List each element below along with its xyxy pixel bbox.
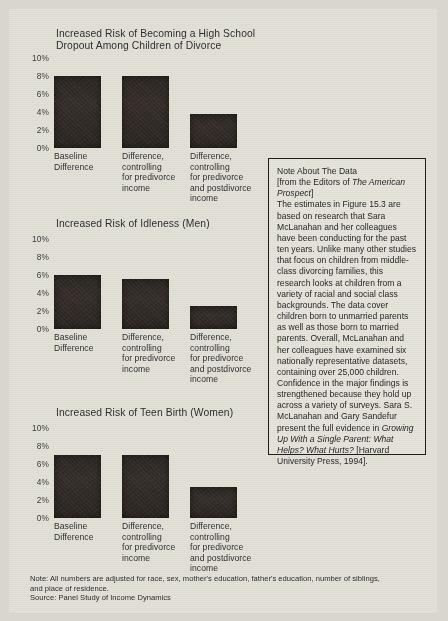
chart-3-catlabel-0: Baseline Difference	[54, 521, 118, 542]
chart-2-ytick-8: 8%	[23, 252, 49, 262]
note-box-attribution-prefix: [from the Editors of	[277, 177, 352, 187]
footnote-line-1: Note: All numbers are adjusted for race,…	[30, 574, 430, 584]
chart-3-ytick-6: 6%	[23, 459, 49, 469]
note-box-title: Note About The Data	[277, 166, 417, 177]
chart-2-ytick-6: 6%	[23, 270, 49, 280]
chart-2-catlabel-2: Difference, controlling for predivorce a…	[190, 332, 260, 385]
chart-3-ytick-2: 2%	[23, 495, 49, 505]
chart-3-ytick-8: 8%	[23, 441, 49, 451]
chart-1-catlabel-1: Difference, controlling for predivorce i…	[122, 151, 186, 193]
note-about-the-data-box: Note About The Data [from the Editors of…	[268, 158, 426, 455]
chart-2-bar-predivorce	[122, 279, 169, 329]
chart-1-ytick-6: 6%	[23, 89, 49, 99]
chart-1-catlabel-0: Baseline Difference	[54, 151, 118, 172]
chart-2-ytick-2: 2%	[23, 306, 49, 316]
note-box-body: The estimates in Figure 15.3 are based o…	[277, 199, 417, 467]
chart-2-title: Increased Risk of Idleness (Men)	[56, 218, 261, 230]
chart-1-catlabel-2: Difference, controlling for predivorce a…	[190, 151, 260, 204]
chart-1-ytick-0: 0%	[23, 143, 49, 153]
chart-3-ytick-10: 10%	[23, 423, 49, 433]
chart-1-title: Increased Risk of Becoming a High School…	[56, 28, 261, 53]
chart-1-ytick-2: 2%	[23, 125, 49, 135]
chart-1-bar-baseline	[54, 76, 101, 148]
chart-2-ytick-4: 4%	[23, 288, 49, 298]
chart-2-plot-area	[54, 239, 254, 329]
chart-1-ytick-8: 8%	[23, 71, 49, 81]
chart-1-plot-area	[54, 58, 254, 148]
chart-high-school-dropout: Increased Risk of Becoming a High School…	[9, 9, 267, 209]
chart-3-bar-postdivorce	[190, 487, 237, 519]
chart-1-bar-predivorce	[122, 76, 169, 148]
chart-2-ytick-0: 0%	[23, 324, 49, 334]
chart-3-catlabel-2: Difference, controlling for predivorce a…	[190, 521, 260, 574]
chart-3-title: Increased Risk of Teen Birth (Women)	[56, 407, 261, 419]
chart-3-bar-baseline	[54, 455, 101, 518]
chart-1-bar-postdivorce	[190, 114, 237, 148]
footnote-line-2: and place of residence.	[30, 584, 430, 594]
chart-2-bar-postdivorce	[190, 306, 237, 329]
figure-footnote: Note: All numbers are adjusted for race,…	[30, 574, 430, 603]
chart-2-catlabel-0: Baseline Difference	[54, 332, 118, 353]
chart-2-bar-baseline	[54, 275, 101, 329]
chart-idleness-men: Increased Risk of Idleness (Men) 10% 8% …	[9, 205, 267, 395]
chart-1-ytick-4: 4%	[23, 107, 49, 117]
chart-3-ytick-0: 0%	[23, 513, 49, 523]
chart-2-ytick-10: 10%	[23, 234, 49, 244]
chart-3-ytick-4: 4%	[23, 477, 49, 487]
note-box-attribution-suffix: ]	[311, 188, 313, 198]
note-box-attribution: [from the Editors of The American Prospe…	[277, 177, 417, 199]
chart-3-bar-predivorce	[122, 455, 169, 518]
chart-1-ytick-10: 10%	[23, 53, 49, 63]
chart-2-catlabel-1: Difference, controlling for predivorce i…	[122, 332, 186, 374]
figure-page: Increased Risk of Becoming a High School…	[9, 9, 437, 613]
chart-teen-birth-women: Increased Risk of Teen Birth (Women) 10%…	[9, 395, 267, 575]
chart-3-plot-area	[54, 428, 254, 518]
chart-3-catlabel-1: Difference, controlling for predivorce i…	[122, 521, 186, 563]
note-box-body-part-1: The estimates in Figure 15.3 are based o…	[277, 199, 416, 432]
footnote-source: Source: Panel Study of Income Dynamics	[30, 593, 430, 603]
